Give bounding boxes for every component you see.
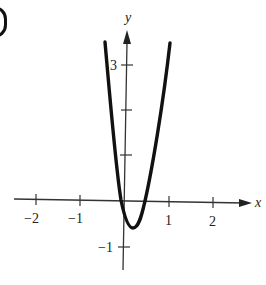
x-tick-label-2: 2	[209, 214, 216, 229]
x-axis-arrow-icon	[239, 199, 252, 207]
x-axis-label: x	[254, 195, 262, 210]
x-tick-label--1: −1	[68, 211, 83, 226]
x-tick-label-1: 1	[165, 213, 172, 228]
y-axis-arrow-icon	[123, 30, 131, 44]
x-tick-label--2: −2	[24, 211, 39, 226]
y-axis-label: y	[123, 10, 132, 25]
y-tick-label--1: −1	[98, 240, 113, 255]
y-tick-label-3: 3	[110, 58, 117, 73]
parabola-chart: −2 −1 1 2 x 3 −1 y	[0, 0, 266, 285]
